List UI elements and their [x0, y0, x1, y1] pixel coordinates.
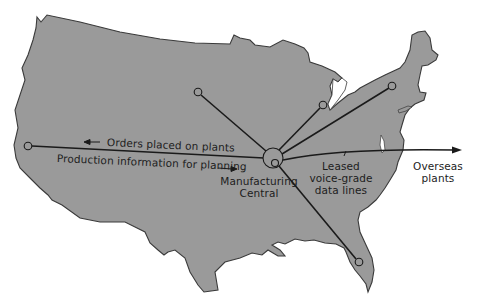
node-central-inner: [272, 160, 279, 167]
node-great-lakes: [319, 101, 327, 109]
node-florida: [355, 258, 363, 266]
overseas-arrowhead-icon: [452, 147, 462, 154]
node-northeast: [388, 82, 396, 90]
overseas-line-1: Overseas: [411, 160, 465, 172]
node-west-coast: [24, 142, 32, 150]
overseas-plants-label: Overseas plants: [411, 160, 465, 184]
leased-line-3: data lines: [305, 184, 377, 196]
leased-line-1: Leased: [305, 160, 377, 172]
manufacturing-central-label: Manufacturing Central: [218, 175, 300, 199]
overseas-line-2: plants: [411, 172, 465, 184]
central-line-1: Manufacturing: [218, 175, 300, 187]
central-line-2: Central: [218, 187, 300, 199]
leased-line-2: voice-grade: [305, 172, 377, 184]
node-midwest: [194, 88, 202, 96]
leased-lines-label: Leased voice-grade data lines: [305, 160, 377, 196]
